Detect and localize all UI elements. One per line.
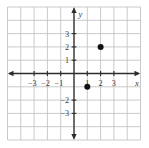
x-axis-letter: x	[134, 78, 139, 88]
y-tick-label: 3	[65, 30, 69, 39]
x-tick-label: 2	[99, 79, 103, 88]
y-axis-arrowhead-bottom	[71, 134, 76, 140]
x-tick-label: −1	[55, 79, 64, 88]
y-tick-label: 1	[65, 56, 69, 65]
coordinate-plane-svg: −3−2−1123321−2−3xy	[0, 0, 149, 148]
y-tick-label: −2	[60, 96, 69, 105]
x-tick-label: −2	[41, 79, 50, 88]
x-axis-arrowhead-right	[135, 71, 141, 76]
y-axis-letter: y	[78, 9, 83, 19]
data-point	[84, 84, 90, 90]
y-tick-label: 2	[65, 43, 69, 52]
x-tick-label: −3	[28, 79, 37, 88]
y-tick-label: −3	[60, 109, 69, 118]
x-tick-label: 3	[112, 79, 116, 88]
data-point	[98, 44, 104, 50]
x-axis-arrowhead-left	[8, 71, 14, 76]
graph-figure: −3−2−1123321−2−3xy	[0, 0, 149, 148]
y-axis-arrowhead-top	[71, 8, 76, 14]
